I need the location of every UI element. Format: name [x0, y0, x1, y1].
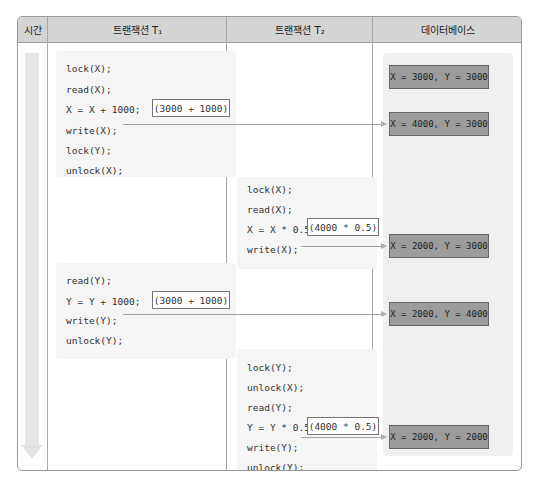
code-line: X = X + 1000;: [66, 104, 140, 116]
header-database: 데이터베이스: [373, 17, 522, 43]
calc-box: (3000 + 1000): [152, 99, 230, 117]
code-line: read(Y);: [66, 275, 112, 287]
db-state-box: X = 2000, Y = 4000: [389, 302, 489, 326]
code-line: lock(X);: [247, 184, 293, 196]
db-state-box: X = 2000, Y = 3000: [389, 234, 489, 258]
header-time: 시간: [18, 17, 48, 43]
code-line: read(X);: [66, 84, 112, 96]
code-line: read(Y);: [247, 402, 293, 414]
db-state-box: X = 4000, Y = 3000: [389, 112, 489, 136]
write-arrow: [123, 124, 386, 125]
write-arrow: [301, 246, 386, 247]
code-line: Y = Y + 1000;: [66, 296, 140, 308]
time-arrow-shaft: [25, 53, 39, 448]
time-arrow-down-icon: [21, 445, 43, 459]
code-line: Y = Y * 0.5;: [247, 422, 316, 434]
code-line: lock(Y);: [66, 145, 112, 157]
calc-box: (4000 * 0.5): [307, 417, 379, 435]
db-state-box: X = 3000, Y = 3000: [389, 65, 489, 89]
write-arrow: [123, 314, 386, 315]
code-line: unlock(X);: [247, 382, 304, 394]
code-line: lock(X);: [66, 63, 112, 75]
code-line: write(X);: [66, 125, 117, 137]
code-line: X = X * 0.5;: [247, 224, 316, 236]
code-line: unlock(Y);: [66, 335, 123, 347]
db-state-box: X = 2000, Y = 2000: [389, 425, 489, 449]
column-divider: [47, 17, 48, 470]
schedule-table: 시간 트랜잭션 T₁ 트랜잭션 T₂ 데이터베이스 lock(X); read(…: [17, 16, 522, 471]
calc-box: (4000 * 0.5): [307, 218, 379, 236]
code-line: unlock(Y);: [247, 462, 304, 471]
header-transaction-t1: 트랜잭션 T₁: [48, 17, 227, 43]
write-arrow: [301, 437, 386, 438]
code-line: unlock(X);: [66, 165, 123, 177]
code-line: write(Y);: [66, 315, 117, 327]
calc-box: (3000 + 1000): [152, 291, 230, 309]
code-line: read(X);: [247, 204, 293, 216]
header-transaction-t2: 트랜잭션 T₂: [227, 17, 373, 43]
code-line: write(Y);: [247, 442, 298, 454]
code-line: lock(Y);: [247, 362, 293, 374]
code-line: write(X);: [247, 244, 298, 256]
